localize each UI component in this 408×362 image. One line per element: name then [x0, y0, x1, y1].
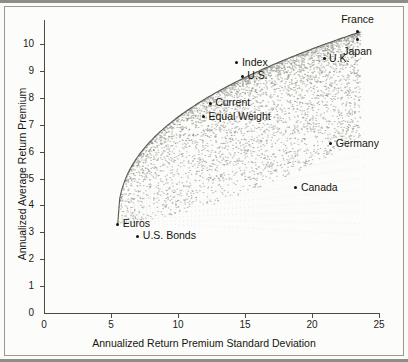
y-tick-5	[40, 179, 44, 180]
data-point-u-s	[241, 75, 244, 78]
figure-container: 0510152025012345678910 FranceJapanU.K.In…	[0, 0, 408, 362]
x-tick-label-20: 20	[297, 320, 327, 330]
top-rule	[0, 0, 408, 3]
data-point-label-equal-weight: Equal Weight	[208, 111, 270, 122]
x-tick-20	[312, 314, 313, 318]
x-tick-label-15: 15	[230, 320, 260, 330]
data-point-label-u-s: U.S.	[247, 70, 267, 81]
y-tick-8	[40, 98, 44, 99]
y-tick-2	[40, 259, 44, 260]
y-axis-line	[44, 20, 45, 314]
x-tick-25	[379, 314, 380, 318]
y-axis-title: Annualized Average Return Premium	[16, 34, 28, 314]
y-tick-10	[40, 44, 44, 45]
x-tick-15	[245, 314, 246, 318]
data-point-label-u-s-bonds: U.S. Bonds	[143, 230, 196, 241]
data-point-current	[209, 102, 212, 105]
x-axis-line	[44, 313, 380, 314]
y-tick-7	[40, 125, 44, 126]
y-tick-9	[40, 71, 44, 72]
x-tick-label-0: 0	[29, 320, 59, 330]
x-tick-10	[178, 314, 179, 318]
x-tick-5	[111, 314, 112, 318]
data-point-label-index: Index	[242, 57, 268, 68]
y-tick-4	[40, 205, 44, 206]
data-point-label-canada: Canada	[301, 182, 338, 193]
data-point-label-euros: Euros	[123, 218, 150, 229]
x-tick-label-5: 5	[96, 320, 126, 330]
data-point-label-u-k: U.K.	[329, 53, 349, 64]
data-point-label-current: Current	[215, 97, 250, 108]
y-tick-6	[40, 152, 44, 153]
y-tick-3	[40, 232, 44, 233]
y-tick-1	[40, 286, 44, 287]
data-point-label-france: France	[341, 14, 374, 25]
x-tick-label-10: 10	[163, 320, 193, 330]
data-point-euros	[116, 223, 119, 226]
x-axis-title: Annualized Return Premium Standard Devia…	[0, 337, 408, 349]
x-tick-label-25: 25	[364, 320, 394, 330]
data-point-label-germany: Germany	[336, 138, 379, 149]
data-point-u-k	[323, 57, 326, 60]
